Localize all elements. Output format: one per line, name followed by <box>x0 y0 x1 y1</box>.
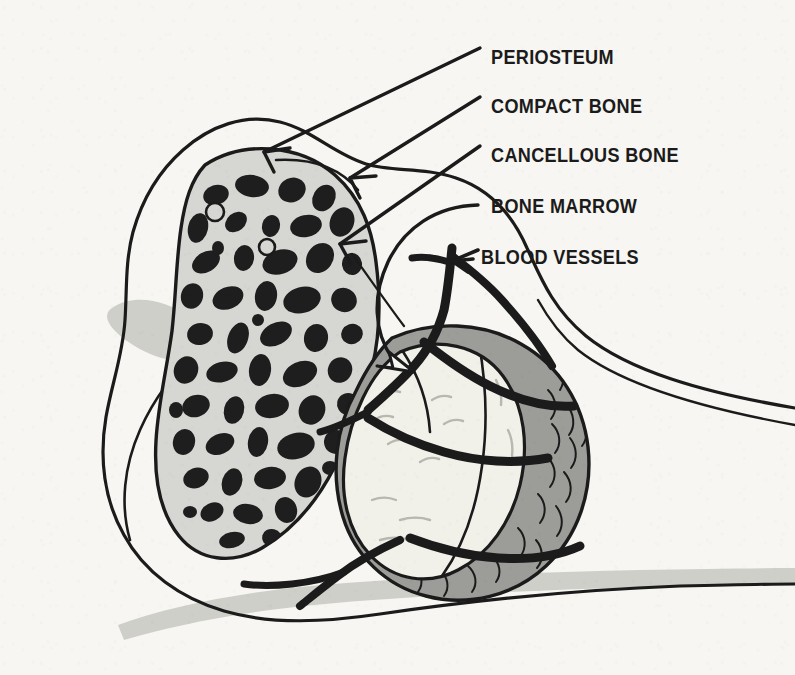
leader-periosteum <box>264 48 480 152</box>
label-compact-bone: COMPACT BONE <box>491 95 642 116</box>
label-bone-marrow: BONE MARROW <box>491 195 637 216</box>
bone-diagram-svg <box>0 0 795 675</box>
label-periosteum: PERIOSTEUM <box>491 46 614 67</box>
label-cancellous-bone: CANCELLOUS BONE <box>491 144 679 165</box>
label-blood-vessels: BLOOD VESSELS <box>481 246 639 267</box>
leader-compact-bone <box>350 97 480 178</box>
bone-anatomy-figure: PERIOSTEUM COMPACT BONE CANCELLOUS BONE … <box>0 0 795 675</box>
vessel-branch-upper-left <box>412 257 449 262</box>
